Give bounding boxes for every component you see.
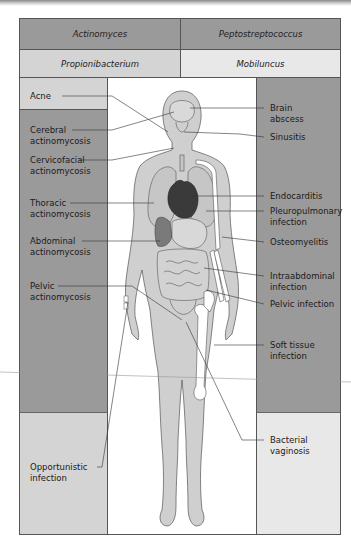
label-pelvic-actinomycosis: Pelvic actinomycosis xyxy=(30,281,91,303)
label-acne: Acne xyxy=(30,91,51,102)
label-bacterial-vaginosis: Bacterial vaginosis xyxy=(270,435,310,457)
label-pelvic-infection: Pelvic infection xyxy=(270,299,334,310)
label-endocarditis: Endocarditis xyxy=(270,191,322,202)
label-thoracic-actinomycosis: Thoracic actinomycosis xyxy=(30,198,91,220)
label-sinusitis: Sinusitis xyxy=(270,132,305,143)
label-pleuropulmonary-infection: Pleuropulmonary infection xyxy=(270,206,342,228)
liver-organ xyxy=(155,217,172,246)
label-osteomyelitis: Osteomyelitis xyxy=(270,237,328,248)
label-intraabdominal-infection: Intraabdominal infection xyxy=(270,271,335,293)
label-cervicofacial-actinomycosis: Cervicofacial actinomycosis xyxy=(30,155,91,177)
label-abdominal-actinomycosis: Abdominal actinomycosis xyxy=(30,236,91,258)
leader-opportunistic xyxy=(97,302,128,467)
label-soft-tissue-infection: Soft tissue infection xyxy=(270,340,315,362)
label-cerebral-actinomycosis: Cerebral actinomycosis xyxy=(30,125,91,147)
label-opportunistic-infection: Opportunistic infection xyxy=(30,462,87,484)
label-brain-abscess: Brain abscess xyxy=(270,103,304,125)
stomach-organ xyxy=(172,219,207,249)
